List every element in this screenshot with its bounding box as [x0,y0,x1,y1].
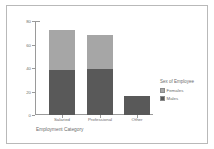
x-axis-title: Employment Category [36,127,83,132]
y-tick-mark [32,68,35,69]
bar-segment-females[interactable] [49,30,75,70]
y-tick-label: 20 [26,90,31,95]
bar-segment-females[interactable] [87,35,113,69]
y-tick-label-wrap: 0 [14,113,31,118]
bar-salaried[interactable] [49,30,75,115]
legend-item-females[interactable]: Females [160,88,210,93]
y-axis-top-cap [35,21,40,22]
legend-swatch-females-icon [160,88,165,93]
bar-other[interactable] [124,96,150,115]
x-tick-label-salaried: Salaried [54,117,70,123]
legend-swatch-males-icon [160,96,165,101]
x-tick-label-other: Other [132,117,143,123]
y-tick-label: 40 [26,66,31,71]
legend: Sex of Employee Females Males [160,79,210,105]
y-tick-mark [32,21,35,22]
y-tick-label-wrap: 60 [14,43,31,48]
legend-label-males: Males [167,96,179,101]
bar-segment-males[interactable] [87,69,113,115]
y-tick-label-wrap: 40 [14,66,31,71]
x-tick-label-professional: Professional [88,117,112,123]
bar-segment-males[interactable] [49,70,75,115]
bar-professional[interactable] [87,35,113,115]
y-tick-mark [32,92,35,93]
y-tick-label-wrap: 80 [14,19,31,24]
legend-item-males[interactable]: Males [160,96,210,101]
y-tick-mark [32,45,35,46]
legend-label-females: Females [167,88,184,93]
y-tick-label: 80 [26,19,31,24]
y-tick-label: 60 [26,43,31,48]
y-tick-mark [32,115,35,116]
bar-segment-males[interactable] [124,96,150,115]
y-tick-label-wrap: 20 [14,90,31,95]
y-tick-label: 0 [29,113,31,118]
legend-title: Sex of Employee [160,79,210,84]
chart-figure: 80 60 40 20 0 Salaried Professional Othe… [0,0,214,149]
